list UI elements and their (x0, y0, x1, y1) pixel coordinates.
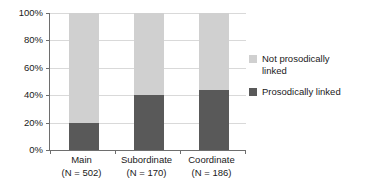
x-axis-category-coordinate: Coordinate (N = 186) (179, 154, 245, 179)
bars-layer (50, 13, 246, 150)
bar-segment-prosodically-linked[interactable] (69, 123, 99, 150)
x-axis-category-name: Subordinate (114, 154, 180, 167)
y-tick-label: 20% (0, 118, 43, 128)
x-axis-category-count: (N = 502) (49, 167, 115, 180)
legend-item-prosodically-linked[interactable]: Prosodically linked (249, 86, 369, 98)
x-axis-category-count: (N = 170) (114, 167, 180, 180)
bar-segment-not-prosodically-linked[interactable] (134, 13, 164, 95)
chart-legend: Not prosodically linked Prosodically lin… (249, 53, 369, 107)
y-tick-label: 40% (0, 90, 43, 100)
legend-item-not-prosodically-linked[interactable]: Not prosodically linked (249, 53, 369, 77)
x-axis-category-main: Main (N = 502) (49, 154, 115, 179)
y-tick-label: 0% (0, 145, 43, 155)
bar-segment-prosodically-linked[interactable] (199, 90, 229, 150)
y-tick-label: 100% (0, 8, 43, 18)
x-axis-category-count: (N = 186) (179, 167, 245, 180)
legend-item-label: Not prosodically linked (262, 53, 350, 77)
legend-item-label: Prosodically linked (262, 86, 341, 98)
bar-group-main[interactable] (69, 13, 99, 150)
x-axis-category-name: Main (49, 154, 115, 167)
plot-area (49, 13, 246, 151)
bar-segment-not-prosodically-linked[interactable] (199, 13, 229, 90)
bar-segment-not-prosodically-linked[interactable] (69, 13, 99, 123)
y-tick-label: 80% (0, 36, 43, 46)
legend-swatch-icon (249, 88, 257, 96)
y-axis-labels: 100% 80% 60% 40% 20% 0% (0, 0, 43, 191)
bar-group-coordinate[interactable] (199, 13, 229, 150)
x-tick-mark (245, 150, 246, 154)
x-axis-labels: Main (N = 502) Subordinate (N = 170) Coo… (49, 154, 245, 188)
y-tick-label: 60% (0, 63, 43, 73)
bar-group-subordinate[interactable] (134, 13, 164, 150)
stacked-bar-chart: 100% 80% 60% 40% 20% 0% (0, 0, 371, 191)
x-axis-category-subordinate: Subordinate (N = 170) (114, 154, 180, 179)
legend-swatch-icon (249, 55, 257, 63)
bar-segment-prosodically-linked[interactable] (134, 95, 164, 150)
x-axis-category-name: Coordinate (179, 154, 245, 167)
